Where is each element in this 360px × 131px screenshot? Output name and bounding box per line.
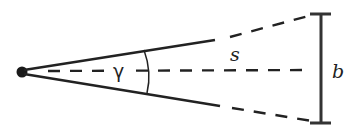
- observer-point: [17, 67, 28, 78]
- size-label: b: [332, 60, 344, 82]
- distance-label: s: [230, 43, 240, 65]
- angular-size-diagram: γ s b: [0, 0, 360, 131]
- upper-sight-line-dashed: [230, 15, 312, 37]
- angle-label: γ: [113, 60, 124, 82]
- center-axis-dashed: [48, 70, 310, 71]
- lower-sight-line-dashed: [232, 108, 312, 121]
